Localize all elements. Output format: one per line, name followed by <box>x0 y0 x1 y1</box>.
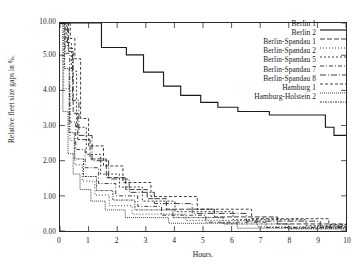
x-tick-label: 1 <box>86 236 90 245</box>
legend-item: Berlin-Spandau 1 <box>254 37 347 46</box>
legend-line-sample <box>320 92 347 100</box>
legend-line-sample <box>320 47 347 55</box>
y-tick-label: 10.00 <box>39 18 56 26</box>
x-tick-label: 2 <box>115 236 119 245</box>
legend-label: Berlin 1 <box>292 19 316 28</box>
legend-line-sample <box>320 56 347 64</box>
legend-label: Hamburg 1 <box>282 83 316 92</box>
legend-label: Berlin 2 <box>292 28 316 37</box>
legend-item: Berlin 1 <box>254 19 347 28</box>
y-tick-label: 2.00 <box>43 157 56 165</box>
legend-line-sample <box>320 83 347 91</box>
x-tick-label: 7 <box>259 236 263 245</box>
x-tick-label: 8 <box>287 236 291 245</box>
y-tick-label: 1.00 <box>43 193 56 201</box>
legend-line-sample <box>320 20 347 28</box>
legend-line-sample <box>320 74 347 82</box>
x-tick-label: 5 <box>201 236 205 245</box>
legend-label: Berlin-Spandau 7 <box>263 65 316 74</box>
figure: 0.001.002.003.004.005.0010.00 Relative f… <box>0 0 358 271</box>
legend-line-sample <box>320 38 347 46</box>
legend-item: Hamburg-Holstein 2 <box>254 92 347 101</box>
y-axis-title: Relative fleet size gaps in %. <box>8 34 16 164</box>
legend-item: Berlin-Spandau 7 <box>254 64 347 73</box>
x-tick-label: 4 <box>172 236 176 245</box>
legend: Berlin 1Berlin 2Berlin-Spandau 1Berlin-S… <box>254 19 347 101</box>
legend-item: Berlin-Spandau 5 <box>254 55 347 64</box>
x-axis-tick-labels: 012345678910 <box>59 236 347 248</box>
y-tick-label: 5.00 <box>43 51 56 59</box>
x-tick-label: 0 <box>57 236 61 245</box>
x-tick-label: 10 <box>343 236 351 245</box>
legend-item: Hamburg 1 <box>254 83 347 92</box>
legend-label: Hamburg-Holstein 2 <box>254 92 316 101</box>
legend-label: Berlin-Spandau 2 <box>263 46 316 55</box>
legend-line-sample <box>320 29 347 37</box>
legend-item: Berlin-Spandau 2 <box>254 46 347 55</box>
x-axis-title: Hours. <box>59 250 347 259</box>
legend-label: Berlin-Spandau 1 <box>263 37 316 46</box>
x-tick-label: 9 <box>316 236 320 245</box>
legend-item: Berlin 2 <box>254 28 347 37</box>
y-tick-label: 3.00 <box>43 122 56 130</box>
x-tick-label: 6 <box>230 236 234 245</box>
legend-item: Berlin-Spandau 8 <box>254 74 347 83</box>
y-tick-label: 4.00 <box>43 86 56 94</box>
legend-line-sample <box>320 65 347 73</box>
x-tick-label: 3 <box>143 236 147 245</box>
y-tick-label: 0.00 <box>43 228 56 236</box>
legend-label: Berlin-Spandau 5 <box>263 55 316 64</box>
legend-label: Berlin-Spandau 8 <box>263 74 316 83</box>
